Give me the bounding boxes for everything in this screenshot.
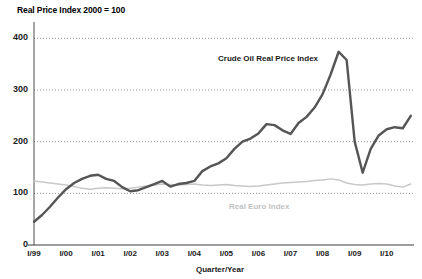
- x-tick-label: I/01: [85, 249, 111, 258]
- plot-area: [0, 0, 422, 279]
- series-label-real-euro: Real Euro Index: [229, 202, 289, 211]
- y-tick-label: 300: [6, 84, 28, 94]
- series-lines: [34, 52, 411, 222]
- y-tick-label: 100: [6, 187, 28, 197]
- y-tick-label: 400: [6, 32, 28, 42]
- x-tick-label: I/00: [53, 249, 79, 258]
- x-tick-label: I/99: [21, 249, 47, 258]
- series-label-crude-oil: Crude Oil Real Price Index: [218, 54, 318, 63]
- x-tick-label: I/02: [117, 249, 143, 258]
- x-tick-label: I/07: [278, 249, 304, 258]
- y-tick-label: 0: [6, 239, 28, 249]
- y-tick-label: 200: [6, 136, 28, 146]
- x-tick-label: I/03: [149, 249, 175, 258]
- x-tick-label: I/05: [213, 249, 239, 258]
- x-axis-title: Quarter/Year: [196, 265, 244, 274]
- x-tick-label: I/10: [374, 249, 400, 258]
- x-tick-label: I/06: [245, 249, 271, 258]
- chart-container: Real Price Index 2000 = 100 400300200100…: [0, 0, 422, 279]
- x-tick-label: I/09: [342, 249, 368, 258]
- series-line-crude-oil: [34, 52, 411, 222]
- x-tick-label: I/04: [181, 249, 207, 258]
- x-tick-label: I/08: [310, 249, 336, 258]
- series-line-real-euro: [34, 179, 411, 189]
